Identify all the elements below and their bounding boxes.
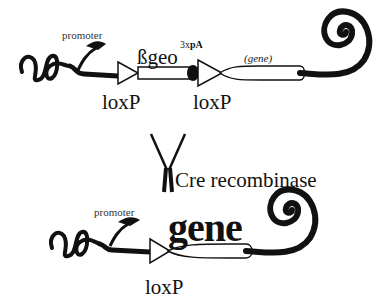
polya-signal-icon xyxy=(187,65,199,81)
bgeo-label: ßgeo xyxy=(137,47,178,68)
promoter-label-after: promoter xyxy=(94,207,134,218)
loxp-label-left: loxP xyxy=(102,92,141,113)
loxp-label-right: loxP xyxy=(193,92,232,113)
dna-spiral-right-icon xyxy=(300,11,369,74)
gene-ellipse-icon xyxy=(220,66,305,80)
promoter-arrow-icon xyxy=(110,224,128,246)
dna-spiral-right-icon xyxy=(246,189,315,252)
gene-bold-label: gene xyxy=(168,208,242,248)
gene-italic-label: (gene) xyxy=(244,53,272,64)
loxp-label-after: loxP xyxy=(145,277,184,298)
cre-recombinase-label: Cre recombinase xyxy=(175,170,317,191)
loxp-triangle-icon xyxy=(198,60,222,86)
loxp-triangle-icon xyxy=(118,62,138,84)
promoter-label: promoter xyxy=(62,30,102,41)
polya-label: 3xpA xyxy=(180,40,203,50)
promoter-arrow-icon xyxy=(78,48,96,70)
dna-coil-left-icon xyxy=(51,232,100,256)
dna-coil-left-icon xyxy=(21,56,70,80)
